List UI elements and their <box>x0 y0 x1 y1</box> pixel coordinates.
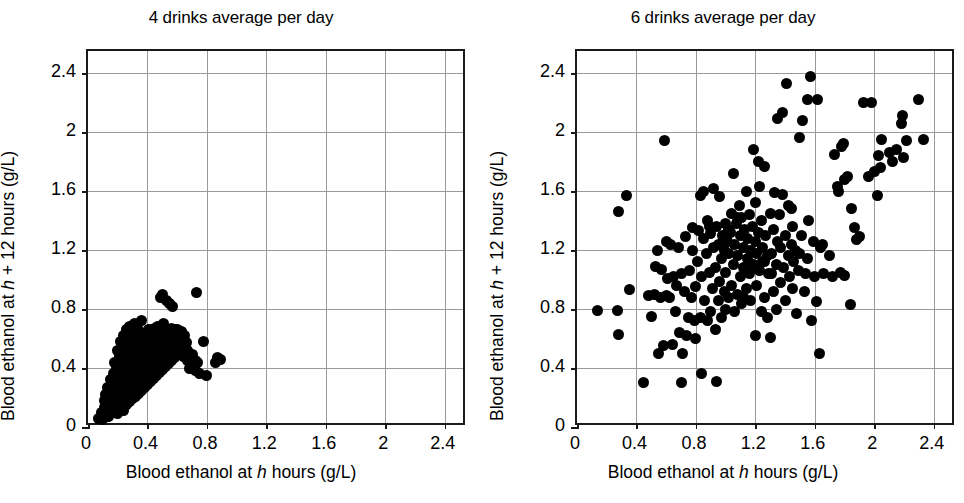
scatter-point <box>215 354 226 365</box>
y-axis-tick <box>82 191 88 193</box>
scatter-point <box>686 292 697 303</box>
scatter-point <box>135 327 146 338</box>
scatter-point <box>780 295 791 306</box>
x-axis-label-pre: Blood ethanol at <box>608 462 739 482</box>
scatter-point <box>768 286 779 297</box>
x-axis-tick-label: 0 <box>81 433 91 454</box>
scatter-point <box>842 171 853 182</box>
y-axis-tick-label: 1.2 <box>24 238 76 259</box>
panel-title-left: 4 drinks average per day <box>0 8 482 28</box>
x-axis-tick-label: 0 <box>570 433 580 454</box>
scatter-point <box>765 332 776 343</box>
scatter-point <box>741 186 752 197</box>
gridline-horizontal <box>577 191 952 192</box>
scatter-point <box>797 115 808 126</box>
x-axis-label-italic-h: h <box>739 462 749 482</box>
scatter-point <box>805 71 816 82</box>
scatter-point <box>751 280 762 291</box>
scatter-point <box>621 190 632 201</box>
scatter-point <box>670 306 681 317</box>
scatter-point <box>714 191 725 202</box>
scatter-point <box>791 308 802 319</box>
y-axis-tick-label: 0 <box>513 415 565 436</box>
scatter-point <box>698 186 709 197</box>
scatter-point <box>592 305 603 316</box>
y-axis-tick <box>82 368 88 370</box>
panel-4-drinks: 4 drinks average per day Blood ethanol a… <box>0 0 482 503</box>
x-axis-tick <box>326 423 328 429</box>
x-axis-tick-label: 2.4 <box>430 433 455 454</box>
scatter-point <box>699 295 710 306</box>
gridline-horizontal <box>577 368 952 369</box>
gridline-vertical <box>445 51 446 423</box>
y-axis-label-pre: Blood ethanol at <box>487 290 507 421</box>
x-axis-tick-label: 2.4 <box>919 433 944 454</box>
y-axis-tick <box>571 191 577 193</box>
scatter-point <box>872 190 883 201</box>
y-axis-tick <box>82 73 88 75</box>
y-axis-tick-label: 0 <box>24 415 76 436</box>
x-axis-tick <box>815 423 817 429</box>
scatter-point <box>690 281 701 292</box>
scatter-point <box>866 97 877 108</box>
scatter-point <box>918 134 929 145</box>
scatter-point <box>704 221 715 232</box>
gridline-vertical <box>696 51 697 423</box>
gridline-horizontal <box>88 250 463 251</box>
x-axis-tick-label: 0.4 <box>622 433 647 454</box>
gridline-horizontal <box>88 191 463 192</box>
x-axis-tick <box>874 423 876 429</box>
y-axis-tick <box>82 309 88 311</box>
y-axis-tick-label: 1.6 <box>24 179 76 200</box>
plot-area-left <box>86 49 465 425</box>
scatter-point <box>766 268 777 279</box>
scatter-point <box>777 189 788 200</box>
scatter-point <box>664 292 675 303</box>
scatter-point <box>677 348 688 359</box>
gridline-vertical <box>385 51 386 423</box>
scatter-point <box>696 368 707 379</box>
scatter-point <box>723 224 734 235</box>
x-axis-tick-label: 2 <box>378 433 388 454</box>
y-axis-tick-label: 0.8 <box>24 297 76 318</box>
scatter-point <box>812 94 823 105</box>
scatter-point <box>680 231 691 242</box>
scatter-point <box>839 270 850 281</box>
scatter-point <box>845 299 856 310</box>
x-axis-tick-label: 0.4 <box>133 433 158 454</box>
scatter-point <box>811 296 822 307</box>
y-axis-tick <box>82 250 88 252</box>
scatter-point <box>624 284 635 295</box>
y-axis-tick-label: 2.4 <box>24 61 76 82</box>
x-axis-tick <box>445 423 447 429</box>
scatter-point <box>817 239 828 250</box>
x-axis-tick-label: 1.2 <box>252 433 277 454</box>
y-axis-tick-label: 2 <box>24 120 76 141</box>
y-axis-label-right: Blood ethanol at h + 12 hours (g/L) <box>487 151 508 421</box>
scatter-point <box>802 253 813 264</box>
x-axis-tick <box>385 423 387 429</box>
scatter-point <box>876 134 887 145</box>
scatter-point <box>705 306 716 317</box>
gridline-vertical <box>266 51 267 423</box>
scatter-point <box>802 94 813 105</box>
scatter-point <box>787 221 798 232</box>
scatter-point <box>612 305 623 316</box>
y-axis-tick <box>571 368 577 370</box>
scatter-point <box>768 224 779 235</box>
y-axis-label-post: + 12 hours (g/L) <box>0 151 18 280</box>
x-axis-tick <box>636 423 638 429</box>
scatter-point <box>898 152 909 163</box>
scatter-figure: 4 drinks average per day Blood ethanol a… <box>0 0 964 503</box>
gridline-horizontal <box>88 309 463 310</box>
scatter-point <box>824 250 835 261</box>
scatter-point <box>684 265 695 276</box>
gridline-vertical <box>207 51 208 423</box>
scatter-point <box>901 135 912 146</box>
scatter-point <box>887 156 898 167</box>
y-axis-tick <box>571 73 577 75</box>
scatter-point <box>192 357 203 368</box>
scatter-point <box>854 231 865 242</box>
x-axis-tick-label: 0.8 <box>192 433 217 454</box>
x-axis-tick <box>88 423 90 429</box>
